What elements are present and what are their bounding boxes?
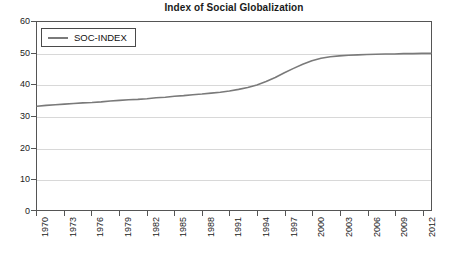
x-axis-label: 2003	[344, 217, 354, 237]
legend-line-swatch	[48, 37, 68, 39]
x-axis-tick	[36, 211, 37, 216]
x-axis-label: 1988	[206, 217, 216, 237]
x-axis-label: 1997	[289, 217, 299, 237]
y-axis-label: 30	[0, 111, 30, 121]
x-axis-label: 2009	[399, 217, 409, 237]
y-axis-label: 20	[0, 143, 30, 153]
x-axis-label: 1973	[68, 217, 78, 237]
x-axis-label: 1979	[123, 217, 133, 237]
x-axis-label: 1991	[233, 217, 243, 237]
x-axis-tick	[423, 211, 424, 216]
y-axis-label: 50	[0, 48, 30, 58]
x-axis-tick	[119, 211, 120, 216]
x-axis-tick	[229, 211, 230, 216]
x-axis-tick	[64, 211, 65, 216]
x-axis-tick	[285, 211, 286, 216]
x-axis-labels: 1970197319761979198219851988199119941997…	[36, 217, 432, 257]
x-axis-tick	[257, 211, 258, 216]
x-axis-label: 2000	[316, 217, 326, 237]
x-axis-tick	[340, 211, 341, 216]
x-axis-tick	[312, 211, 313, 216]
y-axis-labels: 0102030405060	[0, 21, 30, 211]
x-axis-tick	[202, 211, 203, 216]
x-axis-tick	[174, 211, 175, 216]
x-axis-label: 1970	[40, 217, 50, 237]
x-axis-label: 1994	[261, 217, 271, 237]
x-axis-tick	[147, 211, 148, 216]
chart-title: Index of Social Globalization	[36, 2, 432, 13]
y-axis-label: 40	[0, 79, 30, 89]
series-line-soc-index	[37, 22, 431, 210]
x-axis-tick	[395, 211, 396, 216]
x-axis-label: 2012	[427, 217, 437, 237]
chart-legend: SOC-INDEX	[41, 28, 136, 47]
chart-container: Index of Social Globalization 0102030405…	[0, 0, 450, 258]
y-axis-label: 0	[0, 206, 30, 216]
x-axis-tick	[368, 211, 369, 216]
x-axis-tick	[91, 211, 92, 216]
x-axis-label: 2006	[372, 217, 382, 237]
y-axis-label: 60	[0, 16, 30, 26]
plot-area	[36, 21, 432, 211]
x-axis-label: 1985	[178, 217, 188, 237]
x-axis-label: 1976	[95, 217, 105, 237]
x-axis-ticks	[36, 211, 432, 216]
y-axis-label: 10	[0, 174, 30, 184]
x-axis-label: 1982	[151, 217, 161, 237]
legend-label-soc-index: SOC-INDEX	[74, 32, 127, 43]
